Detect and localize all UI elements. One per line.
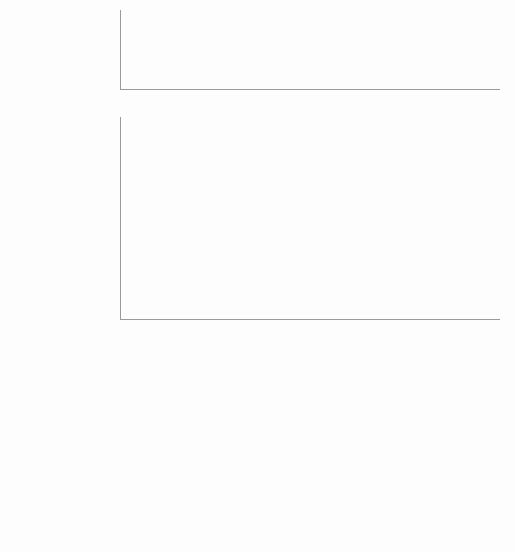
top-chart-plot — [92, 4, 500, 106]
top-chart-bars — [121, 10, 500, 89]
top-bar-chart — [92, 4, 500, 106]
figure-caption — [0, 520, 515, 532]
bottom-chart-plot — [88, 112, 500, 334]
bottom-chart-bars — [121, 117, 500, 319]
x-axis-category-labels — [88, 330, 500, 500]
top-chart-axis-area — [120, 10, 500, 90]
bottom-bar-chart — [88, 112, 500, 334]
figure-page — [0, 0, 515, 552]
bottom-chart-axis-area — [120, 117, 500, 320]
